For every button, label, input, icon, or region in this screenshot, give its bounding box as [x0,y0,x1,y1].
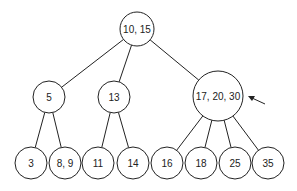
tree-edge [119,45,131,82]
tree-edge [118,112,128,147]
tree-edge [233,116,258,150]
tree-node-l35: 35 [252,147,284,179]
node-label: 17, 20, 30 [196,91,241,102]
node-label: 18 [195,158,207,169]
node-label: 16 [161,158,173,169]
nodes: 10, 1551317, 20, 3038, 9111416182535 [15,12,284,179]
tree-node-l89: 8, 9 [49,147,81,179]
tree-node-root: 10, 15 [120,12,154,46]
tree-edge [224,120,231,147]
tree-edge [177,116,203,150]
tree-node-l14: 14 [117,147,149,179]
node-label: 8, 9 [57,158,74,169]
node-label: 35 [262,158,274,169]
tree-node-n5: 5 [33,81,65,113]
node-label: 10, 15 [123,24,151,35]
tree-edge [150,40,199,80]
tree-node-l25: 25 [219,147,251,179]
node-label: 13 [108,92,120,103]
tree-node-l18: 18 [185,147,217,179]
tree-edge [53,113,61,148]
tree-edge [35,112,45,147]
tree-edge [205,120,212,147]
node-label: 3 [28,158,34,169]
pointer-arrow-icon [248,96,265,104]
tree-node-n17: 17, 20, 30 [193,71,243,121]
tree-edge [62,39,124,87]
node-label: 11 [93,158,104,169]
tree-node-l3: 3 [15,147,47,179]
tree-node-l11: 11 [82,147,114,179]
node-label: 14 [127,158,139,169]
tree-diagram: 10, 1551317, 20, 3038, 9111416182535 [0,0,297,191]
tree-node-n13: 13 [98,81,130,113]
node-label: 5 [46,92,52,103]
tree-edge [102,113,110,148]
tree-node-l16: 16 [151,147,183,179]
tree-canvas: 10, 1551317, 20, 3038, 9111416182535 [0,0,297,191]
node-label: 25 [229,158,241,169]
